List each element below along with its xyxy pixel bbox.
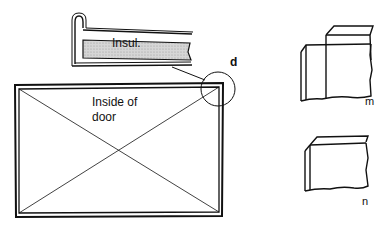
diagram-canvas [0,0,386,225]
door-label-line2: door [92,110,137,125]
view-m-label: m [365,96,374,107]
leader-line [172,67,205,80]
door-label-line1: Inside of [92,95,137,110]
insulation-label: Insul. [112,37,141,49]
detail-d-label: d [230,56,237,68]
door-label: Inside of door [92,95,137,125]
view-n-label: n [362,196,368,207]
detail-circle [201,72,235,106]
view-n [305,136,368,191]
view-m [301,26,373,101]
